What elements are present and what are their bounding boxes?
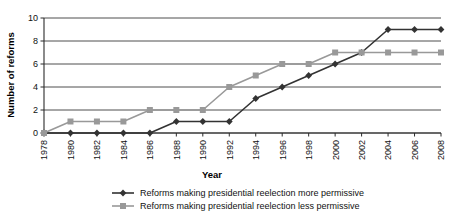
data-point-marker xyxy=(173,107,179,113)
x-tick-label: 2006 xyxy=(410,140,420,160)
x-tick-label: 2008 xyxy=(436,140,446,160)
legend-label: Reforms making presidential reelection l… xyxy=(140,201,360,211)
data-point-marker xyxy=(94,119,100,125)
data-point-marker xyxy=(173,118,180,125)
line-chart: 0246810 19781980198219841986198819901992… xyxy=(0,0,450,221)
legend-label: Reforms making presidential reelection m… xyxy=(140,188,364,198)
data-point-marker xyxy=(438,26,445,33)
data-point-marker xyxy=(332,50,338,56)
data-point-marker xyxy=(94,130,101,137)
data-point-marker xyxy=(199,118,206,125)
x-axis-title: Year xyxy=(202,169,222,180)
data-point-marker xyxy=(332,61,339,68)
y-tick-label: 4 xyxy=(33,82,38,92)
data-point-marker xyxy=(41,130,47,136)
x-tick-label: 1994 xyxy=(251,140,261,160)
x-tick-label: 1992 xyxy=(225,140,235,160)
data-point-marker xyxy=(120,130,127,137)
data-point-marker xyxy=(412,50,418,56)
y-axis-title: Number of reforms xyxy=(5,32,16,118)
y-tick-label: 8 xyxy=(33,36,38,46)
data-point-marker xyxy=(306,61,312,67)
x-tick-label: 2004 xyxy=(383,140,393,160)
legend-item[interactable]: Reforms making presidential reelection l… xyxy=(112,201,360,211)
x-tick-label: 1990 xyxy=(198,140,208,160)
data-point-marker xyxy=(120,119,126,125)
chart-legend: Reforms making presidential reelection m… xyxy=(112,188,364,211)
y-tick-label: 10 xyxy=(28,13,38,23)
data-point-marker xyxy=(279,84,286,91)
data-point-marker xyxy=(200,107,206,113)
x-axis: 1978198019821984198619881990199219941996… xyxy=(39,133,446,160)
legend-marker-swatch xyxy=(120,203,126,209)
y-axis: 0246810 xyxy=(28,13,44,138)
legend-item[interactable]: Reforms making presidential reelection m… xyxy=(112,188,364,198)
data-point-marker xyxy=(67,119,73,125)
y-tick-label: 0 xyxy=(33,128,38,138)
x-tick-label: 2000 xyxy=(331,140,341,160)
x-tick-label: 1978 xyxy=(39,140,49,160)
x-tick-label: 1984 xyxy=(119,140,129,160)
data-point-marker xyxy=(226,84,232,90)
chart-container: 0246810 19781980198219841986198819901992… xyxy=(0,0,450,221)
y-tick-label: 2 xyxy=(33,105,38,115)
x-tick-label: 1982 xyxy=(92,140,102,160)
x-tick-label: 1986 xyxy=(145,140,155,160)
data-point-marker xyxy=(147,107,153,113)
series-layer xyxy=(41,26,445,136)
y-tick-label: 6 xyxy=(33,59,38,69)
series-less-permissive xyxy=(41,50,444,137)
series-line xyxy=(44,53,441,134)
x-tick-label: 2002 xyxy=(357,140,367,160)
data-point-marker xyxy=(67,130,74,137)
x-tick-label: 1980 xyxy=(66,140,76,160)
data-point-marker xyxy=(411,26,418,33)
x-tick-label: 1998 xyxy=(304,140,314,160)
data-point-marker xyxy=(279,61,285,67)
data-point-marker xyxy=(438,50,444,56)
data-point-marker xyxy=(385,50,391,56)
data-point-marker xyxy=(146,130,153,137)
x-tick-label: 1996 xyxy=(278,140,288,160)
x-tick-label: 1988 xyxy=(172,140,182,160)
data-point-marker xyxy=(359,50,365,56)
data-point-marker xyxy=(305,72,312,79)
data-point-marker xyxy=(253,73,259,79)
legend-marker-swatch xyxy=(120,190,127,197)
